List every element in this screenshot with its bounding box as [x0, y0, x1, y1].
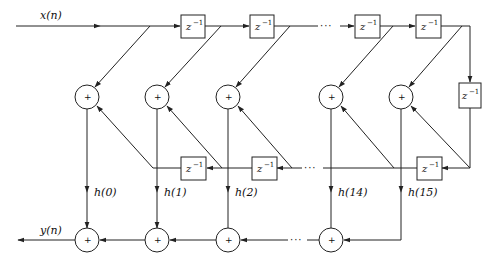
input-label: x(n): [40, 9, 62, 22]
delay-top-2: z−1: [250, 15, 274, 38]
svg-text:−1: −1: [469, 88, 479, 96]
adder-upper-1: +: [75, 85, 99, 109]
fir-filter-diagram: x(n) ··· z−1 z−1 z−1 z−1 z−1 + + + + +: [0, 0, 494, 266]
svg-text:+: +: [328, 92, 336, 102]
svg-text:−1: −1: [428, 19, 438, 27]
bottom-ellipsis: ···: [290, 234, 303, 245]
svg-text:z: z: [461, 90, 468, 101]
input-line: [16, 26, 470, 82]
delay-top-1: z−1: [181, 15, 205, 38]
delay-top-4: z−1: [416, 15, 441, 38]
adder-upper-4: +: [319, 85, 343, 109]
delay-top-3: z−1: [355, 15, 380, 38]
svg-text:z: z: [256, 163, 263, 174]
bottom-diagonals: [97, 106, 470, 168]
top-diagonals: [95, 26, 462, 87]
svg-text:+: +: [398, 92, 406, 102]
coef-h14: h(14): [338, 186, 368, 199]
output-label: y(n): [39, 224, 62, 237]
svg-text:z: z: [421, 163, 428, 174]
delay-mid-2: z−1: [252, 157, 277, 180]
svg-text:+: +: [154, 92, 162, 102]
svg-text:z: z: [185, 163, 192, 174]
coefficient-branches: [87, 109, 401, 240]
svg-text:+: +: [84, 235, 92, 245]
svg-text:z: z: [254, 21, 261, 32]
svg-text:+: +: [225, 92, 233, 102]
adder-lower-3: +: [216, 228, 240, 252]
top-ellipsis: ···: [320, 20, 333, 31]
adder-lower-4: +: [319, 228, 343, 252]
adder-upper-2: +: [145, 85, 169, 109]
delay-right: z−1: [459, 83, 481, 108]
delay-mid-1: z−1: [181, 157, 206, 180]
coef-h15: h(15): [408, 186, 438, 199]
adder-lower-2: +: [145, 228, 169, 252]
coef-h0: h(0): [94, 186, 117, 199]
svg-text:+: +: [84, 92, 92, 102]
svg-text:z: z: [359, 21, 366, 32]
svg-text:−1: −1: [367, 19, 377, 27]
svg-text:−1: −1: [264, 161, 274, 169]
svg-text:+: +: [154, 235, 162, 245]
coef-h2: h(2): [235, 186, 258, 199]
adder-upper-3: +: [216, 85, 240, 109]
svg-text:z: z: [420, 21, 427, 32]
svg-text:z: z: [185, 21, 192, 32]
upper-adders: + + + + +: [75, 85, 413, 109]
adder-upper-5: +: [389, 85, 413, 109]
svg-text:−1: −1: [193, 19, 203, 27]
middle-ellipsis: ···: [304, 162, 317, 173]
svg-text:+: +: [225, 235, 233, 245]
svg-text:−1: −1: [193, 161, 203, 169]
adder-lower-1: +: [75, 228, 99, 252]
delay-mid-3: z−1: [417, 157, 442, 180]
svg-text:−1: −1: [262, 19, 272, 27]
svg-text:−1: −1: [429, 161, 439, 169]
coef-h1: h(1): [164, 186, 187, 199]
svg-text:+: +: [328, 235, 336, 245]
